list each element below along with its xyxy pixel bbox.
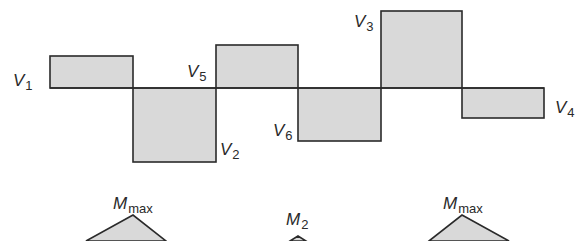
label-m2: M2 xyxy=(286,210,308,232)
shear-segment-v1 xyxy=(50,56,133,88)
label-v5: V5 xyxy=(187,62,207,84)
moment-labels: MmaxM2Mmax xyxy=(113,194,483,232)
label-v4: V4 xyxy=(555,98,575,120)
label-v2: V2 xyxy=(220,140,240,162)
shear-moment-diagram: V1V2V5V6V3V4 MmaxM2Mmax xyxy=(0,0,575,241)
shear-diagram xyxy=(50,11,544,162)
moment-peak-mmax-right xyxy=(429,215,509,241)
shear-segment-v5 xyxy=(216,45,298,88)
shear-segment-v3 xyxy=(381,11,462,88)
label-v3: V3 xyxy=(354,12,374,34)
shear-segment-v4 xyxy=(462,88,544,118)
moment-peak-m2 xyxy=(290,236,306,241)
label-v6: V6 xyxy=(273,121,293,143)
diagram-svg: V1V2V5V6V3V4 MmaxM2Mmax xyxy=(0,0,575,241)
label-mmax-right: Mmax xyxy=(443,194,483,216)
shear-segment-v6 xyxy=(298,88,381,141)
moment-peak-mmax-left xyxy=(86,215,166,241)
label-mmax-left: Mmax xyxy=(113,194,153,216)
label-v1: V1 xyxy=(13,71,33,93)
shear-segment-v2 xyxy=(133,88,216,162)
